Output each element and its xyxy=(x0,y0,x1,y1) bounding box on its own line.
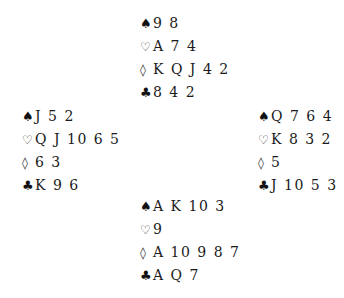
spade-icon: ♠ xyxy=(22,105,34,128)
south-clubs-row: ♣A Q 7 xyxy=(140,264,240,287)
diamond-icon: ◊ xyxy=(258,152,270,175)
east-clubs-cards: J 10 5 3 xyxy=(271,177,338,193)
north-hearts-cards: A 7 4 xyxy=(153,38,197,54)
south-diamonds-cards: A 10 9 8 7 xyxy=(153,244,240,260)
east-spades-row: ♠Q 7 6 4 xyxy=(258,105,338,128)
hand-north: ♠9 8 ♡A 7 4 ◊K Q J 4 2 ♣8 4 2 xyxy=(140,12,230,104)
east-hearts-cards: K 8 3 2 xyxy=(271,131,332,147)
hand-west: ♠J 5 2 ♡Q J 10 6 5 ◊6 3 ♣K 9 6 xyxy=(22,105,121,197)
club-icon: ♣ xyxy=(258,174,270,197)
south-hearts-cards: 9 xyxy=(153,221,163,237)
east-diamonds-cards: 5 xyxy=(271,154,281,170)
heart-icon: ♡ xyxy=(258,129,270,152)
north-spades-cards: 9 8 xyxy=(153,15,180,31)
club-icon: ♣ xyxy=(22,174,34,197)
west-hearts-row: ♡Q J 10 6 5 xyxy=(22,128,121,151)
west-clubs-row: ♣K 9 6 xyxy=(22,174,121,197)
east-spades-cards: Q 7 6 4 xyxy=(271,108,333,124)
north-diamonds-cards: K Q J 4 2 xyxy=(153,61,230,77)
north-clubs-row: ♣8 4 2 xyxy=(140,81,230,104)
spade-icon: ♠ xyxy=(258,105,270,128)
west-hearts-cards: Q J 10 6 5 xyxy=(35,131,121,147)
south-diamonds-row: ◊A 10 9 8 7 xyxy=(140,241,240,264)
east-diamonds-row: ◊5 xyxy=(258,151,338,174)
hand-south: ♠A K 10 3 ♡9 ◊A 10 9 8 7 ♣A Q 7 xyxy=(140,195,240,287)
west-clubs-cards: K 9 6 xyxy=(35,177,80,193)
south-spades-cards: A K 10 3 xyxy=(153,198,226,214)
club-icon: ♣ xyxy=(140,81,152,104)
diamond-icon: ◊ xyxy=(140,59,152,82)
heart-icon: ♡ xyxy=(22,129,34,152)
diamond-icon: ◊ xyxy=(22,152,34,175)
east-hearts-row: ♡K 8 3 2 xyxy=(258,128,338,151)
spade-icon: ♠ xyxy=(140,195,152,218)
south-hearts-row: ♡9 xyxy=(140,218,240,241)
west-spades-cards: J 5 2 xyxy=(35,108,75,124)
north-clubs-cards: 8 4 2 xyxy=(153,84,196,100)
east-clubs-row: ♣J 10 5 3 xyxy=(258,174,338,197)
west-diamonds-cards: 6 3 xyxy=(35,154,62,170)
west-spades-row: ♠J 5 2 xyxy=(22,105,121,128)
spade-icon: ♠ xyxy=(140,12,152,35)
diamond-icon: ◊ xyxy=(140,242,152,265)
north-diamonds-row: ◊K Q J 4 2 xyxy=(140,58,230,81)
hand-east: ♠Q 7 6 4 ♡K 8 3 2 ◊5 ♣J 10 5 3 xyxy=(258,105,338,197)
heart-icon: ♡ xyxy=(140,36,152,59)
heart-icon: ♡ xyxy=(140,219,152,242)
north-hearts-row: ♡A 7 4 xyxy=(140,35,230,58)
south-spades-row: ♠A K 10 3 xyxy=(140,195,240,218)
south-clubs-cards: A Q 7 xyxy=(153,267,200,283)
west-diamonds-row: ◊6 3 xyxy=(22,151,121,174)
north-spades-row: ♠9 8 xyxy=(140,12,230,35)
club-icon: ♣ xyxy=(140,264,152,287)
